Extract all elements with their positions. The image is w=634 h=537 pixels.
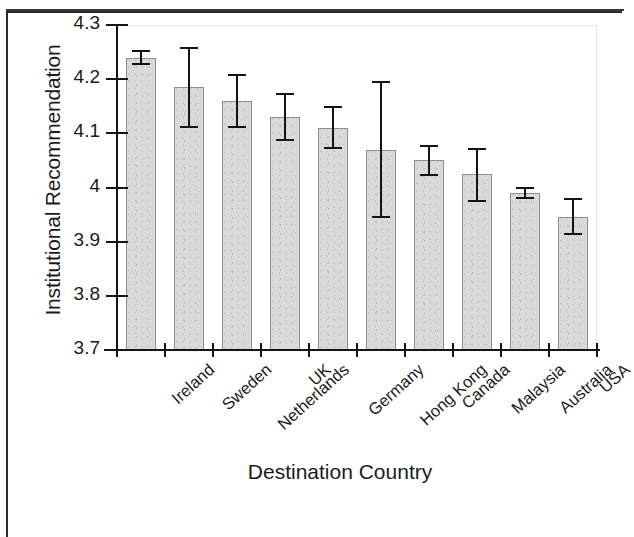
- y-axis-tick-mark: [106, 295, 128, 297]
- error-bar-cap-upper: [324, 106, 342, 108]
- error-bar-cap-lower: [420, 174, 438, 176]
- x-axis-tick-mark: [116, 343, 118, 357]
- bar: [414, 160, 444, 350]
- x-axis-title: Destination Country: [0, 460, 624, 484]
- bar: [270, 117, 300, 350]
- bar: [222, 101, 252, 350]
- error-bar-line: [572, 199, 574, 233]
- x-axis-tick-mark: [452, 343, 454, 357]
- error-bar-cap-upper: [468, 148, 486, 150]
- x-axis-category-label: Germany: [364, 360, 427, 420]
- x-axis-tick-mark: [548, 343, 550, 357]
- error-bar-line: [332, 107, 334, 148]
- x-axis-category-label: Ireland: [168, 360, 218, 408]
- error-bar-line: [428, 146, 430, 175]
- error-bar-cap-lower: [180, 126, 198, 128]
- x-axis-tick-mark: [308, 343, 310, 357]
- bar: [318, 128, 348, 350]
- error-bar-cap-lower: [276, 139, 294, 141]
- error-bar-cap-upper: [276, 93, 294, 95]
- error-bar-line: [284, 94, 286, 141]
- y-axis-tick-label: 4: [42, 175, 100, 197]
- y-axis-tick-label: 4.2: [42, 66, 100, 88]
- x-axis-line: [104, 349, 600, 351]
- x-axis-tick-mark: [164, 343, 166, 357]
- error-bar-cap-upper: [516, 187, 534, 189]
- y-axis-tick-mark: [106, 24, 128, 26]
- y-axis-tick-mark: [106, 132, 128, 134]
- x-axis-tick-mark: [260, 343, 262, 357]
- y-axis-tick-mark: [106, 78, 128, 80]
- error-bar-cap-lower: [132, 63, 150, 65]
- bar: [558, 217, 588, 350]
- x-axis-title-text: Destination Country: [192, 460, 432, 483]
- y-axis-tick-mark: [106, 187, 128, 189]
- x-axis-tick-mark: [500, 343, 502, 357]
- error-bar-cap-upper: [372, 81, 390, 83]
- error-bar-cap-lower: [468, 200, 486, 202]
- x-axis-tick-mark: [356, 343, 358, 357]
- x-axis-category-label: Sweden: [218, 360, 275, 414]
- x-axis-tick-mark: [212, 343, 214, 357]
- error-bar-cap-upper: [420, 145, 438, 147]
- error-bar-cap-lower: [372, 216, 390, 218]
- y-axis-tick-label: 3.8: [42, 283, 100, 305]
- y-axis-tick-label: 4.3: [42, 12, 100, 34]
- error-bar-cap-upper: [228, 74, 246, 76]
- error-bar-cap-upper: [132, 50, 150, 52]
- y-axis-tick-label: 3.9: [42, 229, 100, 251]
- bar: [510, 193, 540, 350]
- y-axis-tick-mark: [106, 241, 128, 243]
- error-bar-cap-lower: [324, 147, 342, 149]
- x-axis-tick-mark: [596, 343, 598, 357]
- error-bar-cap-lower: [516, 197, 534, 199]
- error-bar-line: [236, 75, 238, 127]
- error-bar-cap-lower: [564, 233, 582, 235]
- bar: [126, 58, 156, 351]
- error-bar-line: [188, 48, 190, 127]
- x-axis-category-label: Malaysia: [508, 360, 569, 418]
- error-bar-cap-upper: [564, 198, 582, 200]
- y-axis-tick-label: 3.7: [42, 337, 100, 359]
- error-bar-line: [380, 82, 382, 217]
- error-bar-cap-upper: [180, 47, 198, 49]
- error-bar-cap-lower: [228, 126, 246, 128]
- plot-area: [117, 25, 597, 350]
- y-axis-tick-label: 4.1: [42, 120, 100, 142]
- error-bar-line: [476, 149, 478, 202]
- x-axis-tick-mark: [404, 343, 406, 357]
